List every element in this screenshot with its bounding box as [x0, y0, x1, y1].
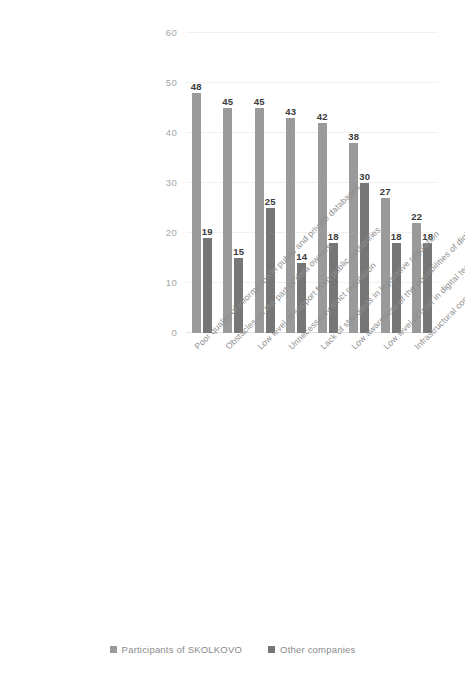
legend-label: Other companies	[280, 644, 355, 655]
chart-page: 0102030405060 48194515452543144218383027…	[0, 0, 465, 685]
square-marker-light-icon	[110, 646, 117, 653]
category-axis-labels: Poor quality of information in public an…	[0, 0, 465, 685]
chart-legend: Participants of SKOLKOVO Other companies	[0, 644, 465, 655]
legend-item-participants[interactable]: Participants of SKOLKOVO	[110, 644, 242, 655]
legend-label: Participants of SKOLKOVO	[122, 644, 242, 655]
legend-item-other[interactable]: Other companies	[268, 644, 355, 655]
square-marker-dark-icon	[268, 646, 275, 653]
